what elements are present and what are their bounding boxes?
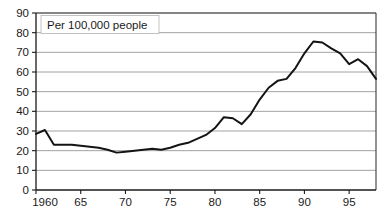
line-chart: 0102030405060708090 196065707580859095 P… xyxy=(0,0,388,214)
x-tick-label-1995: 95 xyxy=(343,196,356,208)
data-series-line xyxy=(36,42,376,153)
x-tick-label-1975: 75 xyxy=(164,196,177,208)
y-axis-tick-labels: 0102030405060708090 xyxy=(16,7,29,196)
x-axis xyxy=(36,190,376,194)
chart-title-label: Per 100,000 people xyxy=(47,19,147,31)
y-tick-label-80: 80 xyxy=(16,27,29,39)
y-tick-label-90: 90 xyxy=(16,7,29,19)
y-tick-label-10: 10 xyxy=(16,164,29,176)
y-tick-label-50: 50 xyxy=(16,86,29,98)
x-tick-label-1985: 85 xyxy=(253,196,266,208)
chart-container: 0102030405060708090 196065707580859095 P… xyxy=(0,0,388,214)
x-axis-tick-labels: 196065707580859095 xyxy=(32,196,355,208)
x-tick-label-1980: 80 xyxy=(209,196,222,208)
y-tick-label-30: 30 xyxy=(16,125,29,137)
y-axis xyxy=(32,13,36,190)
plot-frame xyxy=(36,13,376,190)
x-tick-label-1970: 70 xyxy=(119,196,132,208)
x-tick-label-1960: 1960 xyxy=(32,196,58,208)
y-tick-label-20: 20 xyxy=(16,145,29,157)
x-tick-label-1990: 90 xyxy=(298,196,311,208)
y-tick-label-40: 40 xyxy=(16,105,29,117)
y-tick-label-60: 60 xyxy=(16,66,29,78)
x-tick-label-1965: 65 xyxy=(74,196,87,208)
y-tick-label-0: 0 xyxy=(23,184,29,196)
y-tick-label-70: 70 xyxy=(16,46,29,58)
chart-title: Per 100,000 people xyxy=(41,16,159,34)
